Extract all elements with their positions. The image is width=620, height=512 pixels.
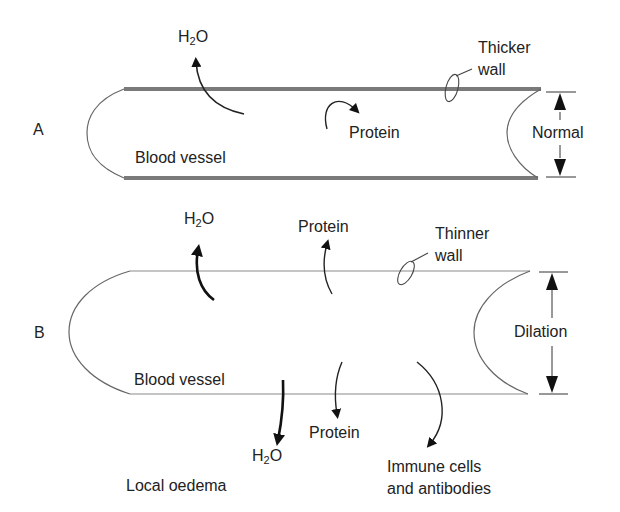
panel-b-h2o-top-label: H2O (184, 211, 214, 229)
panel-b-protein-top-arrow (324, 244, 332, 294)
panel-b-immune-label-line2: and antibodies (387, 481, 491, 497)
panel-b-protein-bottom-label: Protein (309, 425, 360, 441)
panel-b-vessel-label: Blood vessel (134, 372, 225, 388)
panel-a-vessel-label: Blood vessel (135, 150, 226, 166)
panel-a-label: A (33, 122, 44, 138)
panel-b-dilation-label: Dilation (514, 324, 567, 340)
panel-b-protein-bottom-arrow (335, 362, 342, 414)
panel-b-h2o-bottom-label: H2O (252, 448, 282, 466)
panel-b-wall-leader (411, 253, 428, 262)
panel-a-h2o-label: H2O (178, 29, 208, 47)
panel-b-immune-label-line1: Immune cells (387, 459, 481, 475)
panel-b-oedema-label: Local oedema (126, 478, 227, 494)
panel-b-immune-arrow (417, 362, 442, 444)
panel-b-wall-label-line2: wall (435, 248, 463, 264)
panel-a-normal-label: Normal (532, 125, 584, 141)
panel-b-left-cap (69, 271, 130, 394)
panel-b-h2o-bottom-arrow (278, 380, 283, 440)
panel-a-wall-label-line1: Thicker (478, 40, 530, 56)
panel-a-left-cap (87, 89, 124, 178)
panel-b-h2o-top-arrow (197, 250, 214, 300)
panel-a-wall-label-line2: wall (478, 62, 506, 78)
panel-b-label: B (34, 325, 45, 341)
panel-a-protein-label: Protein (349, 125, 400, 141)
panel-b-wall-marker (394, 259, 417, 288)
panel-b-protein-top-label: Protein (298, 219, 349, 235)
panel-b-wall-label-line1: Thinner (435, 226, 489, 242)
panel-a-wall-leader (456, 69, 472, 76)
